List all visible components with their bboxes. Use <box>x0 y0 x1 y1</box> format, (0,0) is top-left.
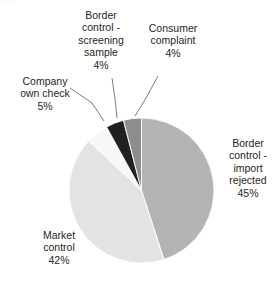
slice-label-consumer-complaint: Consumer complaint 4% <box>138 22 208 59</box>
slice-label-screening-sample: Border control - screening sample 4% <box>70 9 132 71</box>
slice-label-line: screening <box>70 34 132 46</box>
slice-label-company-own-check: Company own check 5% <box>6 75 84 112</box>
slice-value-screening-sample: 4% <box>70 59 132 71</box>
slice-label-line: control - <box>70 21 132 33</box>
slice-label-line: complaint <box>138 34 208 46</box>
slice-value-company-own-check: 5% <box>6 100 84 112</box>
slice-label-line: Market <box>29 229 89 241</box>
slice-value-consumer-complaint: 4% <box>138 47 208 59</box>
leader-line-screening-sample <box>112 78 117 118</box>
chart-page: (%) Border control - screening sample 4%… <box>0 0 279 294</box>
slice-label-line: control <box>29 241 89 253</box>
slice-label-line: Border <box>218 137 278 149</box>
slice-label-line: Border <box>70 9 132 21</box>
slice-label-market-control: Market control 42% <box>29 229 89 266</box>
slice-value-market-control: 42% <box>29 254 89 266</box>
slice-label-import-rejected: Border control - import rejected 45% <box>218 137 278 199</box>
slice-label-line: Company <box>6 75 84 87</box>
slice-value-import-rejected: 45% <box>218 187 278 199</box>
slice-label-line: own check <box>6 87 84 99</box>
leader-line-consumer-complaint <box>135 76 158 116</box>
pie-slice-group <box>69 118 214 263</box>
slice-label-line: Consumer <box>138 22 208 34</box>
slice-label-line: sample <box>70 46 132 58</box>
slice-label-line: import <box>218 162 278 174</box>
slice-label-line: rejected <box>218 174 278 186</box>
slice-label-line: control - <box>218 149 278 161</box>
